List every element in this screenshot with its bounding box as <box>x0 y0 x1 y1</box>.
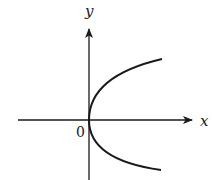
x-axis-label: x <box>200 112 209 130</box>
origin-label: 0 <box>76 124 85 140</box>
y-axis-label: y <box>84 2 94 20</box>
parabola-diagram: y x 0 <box>0 0 215 180</box>
parabola-curve <box>89 59 162 170</box>
